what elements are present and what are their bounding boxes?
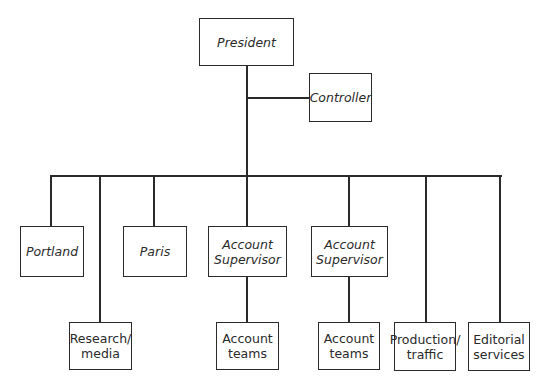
president-trunk-line <box>246 66 248 177</box>
teams-2-drop-line <box>348 277 350 322</box>
president-box: President <box>199 18 294 66</box>
production-drop-line <box>425 175 427 322</box>
controller-connector-line <box>246 97 309 99</box>
account-supervisor-1-box: Account Supervisor <box>208 226 287 277</box>
account-supervisor-1-label: Account Supervisor <box>214 237 281 267</box>
supervisor-2-drop-line <box>348 175 350 226</box>
supervisor-1-drop-line <box>246 175 248 226</box>
paris-drop-line <box>153 175 155 226</box>
research-media-label: Research/ media <box>70 331 132 361</box>
controller-label: Controller <box>310 90 372 105</box>
editorial-drop-line <box>499 175 501 322</box>
account-teams-2-box: Account teams <box>318 322 380 370</box>
production-traffic-label: Production/ traffic <box>390 332 461 362</box>
paris-box: Paris <box>123 226 187 277</box>
president-label: President <box>217 35 276 50</box>
paris-label: Paris <box>140 244 170 259</box>
account-supervisor-2-label: Account Supervisor <box>316 237 383 267</box>
account-teams-2-label: Account teams <box>324 331 374 361</box>
controller-box: Controller <box>309 73 372 122</box>
editorial-services-label: Editorial services <box>473 332 525 362</box>
editorial-services-box: Editorial services <box>468 322 530 371</box>
teams-1-drop-line <box>246 277 248 322</box>
main-bus-line <box>50 175 502 177</box>
research-media-box: Research/ media <box>69 322 132 370</box>
account-teams-1-box: Account teams <box>216 322 279 370</box>
portland-label: Portland <box>26 244 78 259</box>
account-supervisor-2-box: Account Supervisor <box>311 226 388 277</box>
production-traffic-box: Production/ traffic <box>394 322 456 371</box>
account-teams-1-label: Account teams <box>222 331 272 361</box>
portland-drop-line <box>50 175 52 226</box>
portland-box: Portland <box>20 226 84 277</box>
research-drop-line <box>99 175 101 322</box>
